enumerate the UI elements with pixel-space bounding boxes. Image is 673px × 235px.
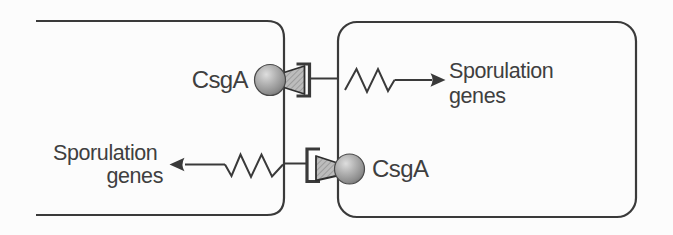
activation-arrow-icon [170,158,185,172]
top-signal-group: CsgA Sporulation genes [192,59,559,108]
zigzag-signal-line [225,155,283,178]
csga-label-top: CsgA [192,66,249,93]
sporulation-genes-label-left: Sporulation genes [53,141,163,189]
signal-cone-icon [316,156,336,181]
activation-arrow-icon [431,73,446,87]
bottom-signal-group: CsgA Sporulation genes [53,141,429,189]
right-cell-membrane [338,22,636,217]
figure-canvas: CsgA Sporulation genes CsgA Sporulation … [0,0,673,235]
csga-protein-ball-icon [255,65,286,96]
sporulation-genes-label-right: Sporulation genes [449,59,559,108]
signal-cone-icon [284,66,305,94]
csga-label-bottom: CsgA [372,155,429,182]
csga-protein-ball-icon [335,154,365,184]
zigzag-signal-line [345,69,395,92]
